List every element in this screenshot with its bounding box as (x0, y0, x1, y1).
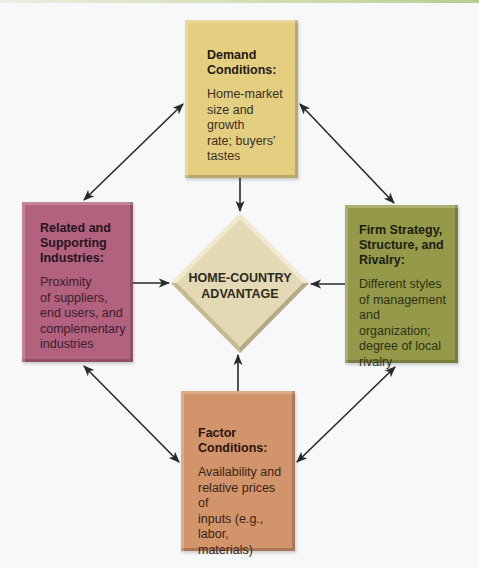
demand-conditions-title: Demand Conditions: (207, 48, 288, 78)
arrow-related-factor (84, 366, 179, 462)
demand-conditions-description: Home-market size and growth rate; buyers… (207, 87, 288, 165)
factor-conditions-box: Factor Conditions: Availability and rela… (181, 391, 295, 551)
arrow-firm-factor (297, 367, 395, 462)
firm-strategy-box: Firm Strategy, Structure, and Rivalry: D… (345, 205, 458, 363)
factor-conditions-description: Availability and relative prices of inpu… (198, 465, 285, 558)
related-supporting-industries-description: Proximity of suppliers, end users, and c… (40, 275, 123, 353)
demand-conditions-box: Demand Conditions: Home-market size and … (185, 20, 298, 178)
arrow-demand-related (84, 104, 183, 200)
factor-conditions-title: Factor Conditions: (198, 426, 285, 456)
arrow-demand-firm (300, 104, 394, 203)
firm-strategy-description: Different styles of management and organ… (359, 277, 448, 370)
firm-strategy-title: Firm Strategy, Structure, and Rivalry: (359, 223, 448, 268)
home-country-advantage-label: HOME-COUNTRY ADVANTAGE (171, 270, 309, 302)
related-supporting-industries-title: Related and Supporting Industries: (40, 221, 123, 266)
related-supporting-industries-box: Related and Supporting Industries: Proxi… (22, 202, 133, 362)
